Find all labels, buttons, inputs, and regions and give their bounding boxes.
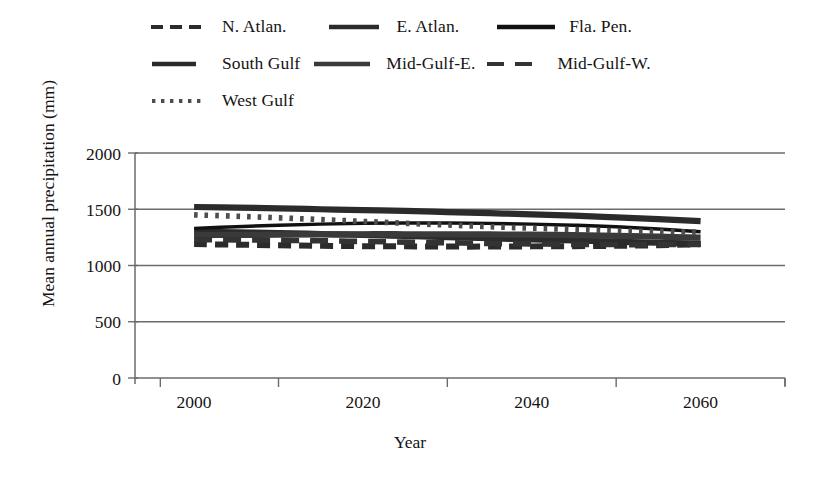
x-tick-label-2000: 2000 [177,392,212,412]
y-tick-labels: 0500100015002000 [86,144,121,389]
precipitation-projection-figure: N. Atlan. E. Atlan. Fla. Pen. [0,0,820,477]
x-tick-label-2040: 2040 [514,392,549,412]
x-tick-labels: 2000202020402060 [177,392,719,412]
grid-lines [135,153,785,386]
series-line-mid-gulf-e [194,234,700,237]
x-tick-label-2060: 2060 [683,392,718,412]
x-tick-label-2020: 2020 [345,392,380,412]
chart-plot-area: 0500100015002000 2000202020402060 [0,0,820,477]
y-tick-label-1000: 1000 [86,256,121,276]
y-tick-label-1500: 1500 [86,200,121,220]
y-tick-label-2000: 2000 [86,144,121,164]
axis-ticks [128,153,785,387]
y-tick-label-500: 500 [95,312,122,332]
y-tick-label-0: 0 [112,369,121,389]
data-series [194,207,700,247]
